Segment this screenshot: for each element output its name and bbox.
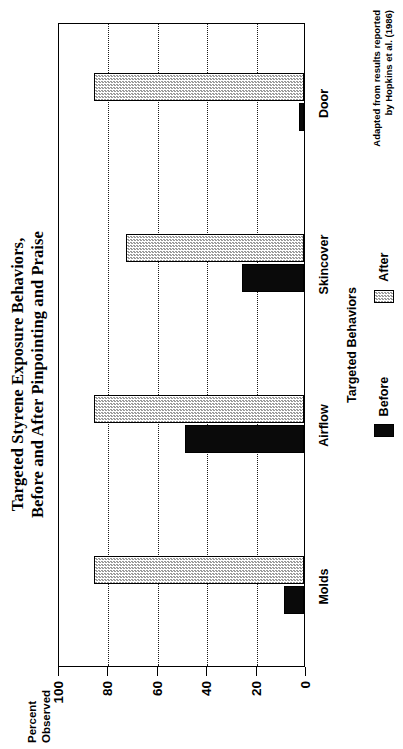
bar-group — [59, 344, 304, 505]
y-axis-label: Percent Observed — [26, 690, 53, 743]
bar-after-door[interactable] — [94, 74, 304, 102]
rotated-figure-container: Targeted Styrene Exposure Behaviors, Bef… — [0, 0, 403, 749]
chart-title-line-2: Before and After Pinpointing and Praise — [28, 0, 48, 749]
legend-item-after[interactable]: After — [374, 253, 394, 303]
y-axis-label-line-1: Percent — [26, 690, 40, 743]
y-axis-tick-label: 80 — [100, 681, 115, 749]
y-axis-tick-label: 0 — [298, 681, 313, 749]
plot-area — [58, 23, 305, 667]
y-axis-tick-label: 40 — [199, 681, 214, 749]
bar-group — [59, 22, 304, 183]
source-note-line-1: Adapted from results reported — [371, 10, 383, 147]
x-axis-title: Targeted Behaviors — [345, 23, 359, 667]
y-axis-tick — [107, 667, 108, 676]
category-label-airflow: Airflow — [317, 404, 331, 446]
legend-swatch-after-icon — [374, 290, 394, 303]
y-axis-tick-label: 100 — [51, 681, 66, 749]
bar-before-molds[interactable] — [284, 587, 304, 615]
category-label-molds: Molds — [317, 568, 331, 604]
source-note: Adapted from results reported by Hopkins… — [371, 10, 395, 147]
y-axis-tick-label: 60 — [149, 681, 164, 749]
category-label-skincover: Skincover — [317, 235, 331, 295]
bar-chart-figure: Targeted Styrene Exposure Behaviors, Bef… — [0, 0, 403, 749]
y-axis-tick-label: 20 — [248, 681, 263, 749]
bar-before-door[interactable] — [299, 104, 304, 132]
chart-title-line-1: Targeted Styrene Exposure Behaviors, — [8, 0, 28, 749]
y-axis-tick — [256, 667, 257, 676]
bar-before-skincover[interactable] — [242, 265, 304, 293]
y-axis-tick — [58, 667, 59, 676]
y-axis-tick — [305, 667, 306, 676]
bar-series-layer — [59, 24, 304, 666]
chart-title: Targeted Styrene Exposure Behaviors, Bef… — [8, 0, 48, 749]
legend-swatch-before-icon — [374, 424, 394, 437]
legend-label-after: After — [377, 253, 391, 282]
source-note-line-2: by Hopkins et al. (1986) — [383, 10, 395, 147]
legend-label-before: Before — [377, 377, 391, 417]
bar-group — [59, 183, 304, 344]
category-label-door: Door — [317, 89, 331, 118]
legend-item-before[interactable]: Before — [374, 377, 394, 438]
bar-group — [59, 505, 304, 666]
bar-after-airflow[interactable] — [94, 396, 304, 424]
bar-after-molds[interactable] — [94, 557, 304, 585]
bar-after-skincover[interactable] — [126, 235, 304, 263]
y-axis-tick — [157, 667, 158, 676]
bar-before-airflow[interactable] — [185, 426, 304, 454]
y-axis-tick — [206, 667, 207, 676]
